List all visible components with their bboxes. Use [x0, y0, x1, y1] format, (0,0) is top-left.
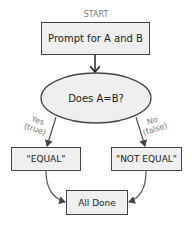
decision-node-label: Does A=B?	[68, 93, 124, 104]
start-label: START	[0, 10, 192, 19]
prompt-node-label: Prompt for A and B	[48, 33, 143, 44]
done-node: All Done	[66, 190, 128, 215]
arrow-notequal-to-done	[129, 171, 146, 202]
done-node-label: All Done	[78, 198, 116, 208]
equal-node-label: "EQUAL"	[27, 154, 66, 164]
not-equal-node-label: "NOT EQUAL"	[116, 154, 177, 164]
prompt-node: Prompt for A and B	[41, 22, 150, 55]
equal-node: "EQUAL"	[11, 147, 81, 171]
decision-node: Does A=B?	[41, 73, 151, 123]
not-equal-node: "NOT EQUAL"	[111, 147, 182, 171]
arrow-equal-to-done	[46, 171, 65, 202]
